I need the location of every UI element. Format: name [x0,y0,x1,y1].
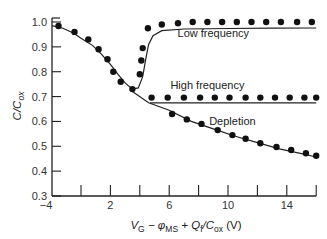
data-point [145,25,151,31]
data-point [159,21,165,27]
y-axis-label: C/Cox [11,91,26,121]
annotation-label: Depletion [209,115,255,127]
data-point [85,36,91,42]
y-axis-label-sub: ox [16,91,26,101]
x-axis-label-sub-ms: MS [165,224,178,234]
data-point [215,127,221,133]
x-tick-label: 14 [281,199,293,211]
x-tick-label: 6 [166,199,172,211]
x-axis-label-c: /C [202,219,215,231]
annotation-label: High frequency [170,79,244,91]
data-point [242,94,248,100]
x-axis-label-q: + Q [178,219,200,231]
data-point [175,20,181,26]
data-point [55,23,61,29]
x-tick-label: 2 [107,199,113,211]
data-point [242,136,248,142]
x-tick-label: −4 [40,199,53,211]
x-axis-label: VG − φMS + Qf/Cox (V) [130,219,241,234]
cv-chart: 1.00.90.80.70.60.50.40.3−4261014 Low fre… [0,0,327,239]
y-tick-label: 0.6 [32,115,47,127]
data-point [138,57,144,63]
data-point [118,79,124,85]
x-axis-label-sub-g: G [138,224,145,234]
data-point [169,111,175,117]
y-tick-label: 0.7 [32,91,47,103]
data-point [181,94,187,100]
data-point [229,132,235,138]
y-tick-label: 0.5 [32,140,47,152]
data-point [301,94,307,100]
annotations: Low frequencyHigh frequencyDepletion [170,27,255,127]
data-point [110,69,116,75]
data-point [71,29,77,35]
data-point [234,19,240,25]
data-point [197,94,203,100]
y-tick-label: 0.9 [32,41,47,53]
data-point [140,45,146,51]
data-point [273,144,279,150]
data-point [219,19,225,25]
x-axis-label-phi: − φ [145,219,166,231]
data-point [303,150,309,156]
data-point [272,94,278,100]
data-point [263,19,269,25]
y-tick-label: 0.8 [32,66,47,78]
data-point [248,19,254,25]
data-point [148,94,154,100]
data-point [313,94,319,100]
y-tick-label: 1.0 [32,16,47,28]
data-point [257,94,263,100]
data-point [104,56,110,62]
data-point [313,153,319,159]
x-axis-label-unit: (V) [223,219,242,231]
data-point [204,19,210,25]
data-point [129,86,135,92]
data-point [198,121,204,127]
x-tick-label: 10 [222,199,234,211]
data-point [226,94,232,100]
data-point [294,19,300,25]
data-point [137,71,143,77]
data-point [309,19,315,25]
data-point [287,94,293,100]
data-point [288,147,294,153]
data-point [184,116,190,122]
data-point [165,94,171,100]
data-point [257,140,263,146]
data-point [278,19,284,25]
data-point [190,19,196,25]
y-tick-label: 0.4 [32,165,47,177]
series-lines [52,26,316,157]
data-point [212,94,218,100]
annotation-label: Low frequency [178,27,250,39]
data-point [95,46,101,52]
y-axis-label-main: C/C [11,100,23,121]
